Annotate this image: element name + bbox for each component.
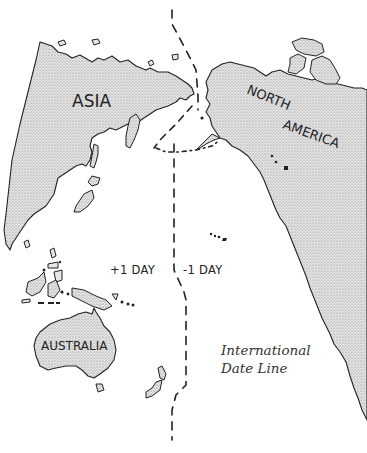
minus-one-day-label: -1 DAY [183, 263, 223, 277]
hawaii-islands [210, 233, 227, 241]
label-australia: AUSTRALIA [41, 339, 108, 353]
indonesia-islands [22, 272, 135, 310]
date-line-map: ASIA NORTH AMERICA AUSTRALIA +1 DAY -1 D… [0, 0, 367, 453]
caption-line-1: International [221, 341, 311, 359]
map-caption: International Date Line [221, 341, 311, 377]
map-illustration: ASIA NORTH AMERICA AUSTRALIA [0, 0, 367, 453]
asia-landmass [4, 39, 194, 282]
caption-line-2: Date Line [221, 359, 311, 377]
new-zealand-islands [146, 366, 166, 398]
label-asia: ASIA [72, 91, 111, 111]
plus-one-day-label: +1 DAY [110, 263, 155, 277]
